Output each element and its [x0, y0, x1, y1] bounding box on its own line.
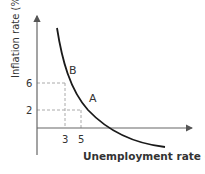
phillips-curve-diagram: 6 2 3 5 B A Unemployment rate (%) Inflat…	[0, 0, 205, 174]
tick-y-6: 6	[26, 78, 32, 89]
phillips-curve	[57, 28, 165, 147]
y-axis-title: Inflation rate (%)	[10, 0, 21, 78]
x-axis-title: Unemployment rate (%)	[83, 150, 205, 162]
tick-x-5: 5	[78, 134, 84, 145]
point-label-a: A	[89, 92, 97, 105]
tick-x-3: 3	[62, 134, 68, 145]
tick-y-2: 2	[26, 105, 32, 116]
point-label-b: B	[69, 64, 77, 77]
